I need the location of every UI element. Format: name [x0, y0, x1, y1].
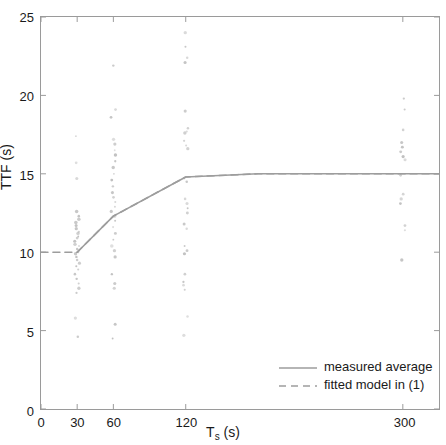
scatter-point: [75, 161, 78, 164]
legend-label: measured average: [324, 358, 432, 376]
scatter-point: [74, 316, 77, 319]
scatter-point: [110, 210, 113, 213]
scatter-point: [78, 245, 80, 247]
scatter-point: [183, 131, 186, 134]
scatter-point: [111, 191, 114, 194]
scatter-point: [184, 245, 186, 247]
scatter-point: [399, 202, 402, 205]
scatter-point: [187, 127, 189, 129]
scatter-point: [404, 229, 406, 231]
x-axis-label: Ts (s): [0, 424, 446, 442]
scatter-point: [76, 232, 79, 235]
scatter-point: [77, 336, 79, 338]
scatter-point: [400, 141, 403, 144]
scatter-point: [75, 224, 78, 227]
scatter-point: [401, 146, 404, 149]
scatter-point: [185, 202, 188, 205]
scatter-point: [114, 206, 116, 208]
scatter-point: [112, 64, 114, 66]
scatter-point: [183, 252, 186, 255]
plot-canvas: [41, 17, 439, 409]
scatter-point: [110, 244, 114, 248]
figure: 0510152025 03060120300 TTF (s) Ts (s) me…: [0, 0, 446, 445]
scatter-point: [113, 287, 116, 290]
scatter-point: [184, 273, 187, 276]
scatter-point: [186, 147, 189, 150]
measured-average-line: [77, 174, 439, 252]
scatter-point: [77, 287, 80, 290]
scatter-point: [75, 210, 79, 214]
scatter-point: [185, 145, 187, 147]
scatter-point: [73, 243, 76, 246]
scatter-point: [78, 215, 81, 218]
scatter-point: [186, 249, 189, 252]
scatter-point: [112, 166, 115, 169]
legend-solid-line-icon: [278, 361, 318, 373]
scatter-point: [114, 232, 117, 235]
scatter-point: [114, 149, 116, 151]
scatter-point: [114, 220, 116, 222]
scatter-point: [185, 180, 188, 183]
scatter-point: [75, 227, 78, 230]
scatter-point: [400, 197, 403, 200]
scatter-point: [75, 292, 77, 294]
scatter-point: [111, 273, 113, 275]
scatter-point: [76, 237, 79, 240]
scatter-point: [184, 198, 187, 201]
scatter-point: [404, 224, 407, 227]
scatter-point: [399, 150, 402, 153]
scatter-point: [75, 278, 77, 280]
scatter-point: [75, 177, 78, 180]
scatter-point: [187, 207, 189, 209]
scatter-point: [75, 256, 77, 258]
scatter-point: [182, 281, 184, 283]
scatter-point: [184, 289, 186, 291]
scatter-point: [110, 179, 113, 182]
scatter-point: [182, 334, 185, 337]
y-tick-label: 10: [20, 246, 41, 261]
scatter-point: [78, 282, 80, 284]
scatter-point: [114, 323, 117, 326]
scatter-point: [114, 108, 117, 111]
scatter-point: [112, 226, 114, 228]
scatter-point: [184, 31, 187, 34]
y-tick-label: 20: [20, 88, 41, 103]
scatter-point: [76, 259, 78, 261]
scatter-point: [114, 255, 117, 258]
scatter-point: [112, 138, 115, 141]
scatter-point: [185, 227, 187, 229]
scatter-point: [112, 196, 115, 199]
legend: measured averagefitted model in (1): [278, 358, 432, 394]
scatter-point: [73, 240, 76, 243]
scatter-point: [184, 61, 187, 64]
scatter-point: [112, 239, 114, 241]
scatter-point: [113, 173, 115, 175]
x-axis-label-unit: (s): [220, 424, 240, 440]
scatter-point: [184, 110, 187, 113]
scatter-point: [114, 160, 116, 162]
scatter-point: [112, 338, 114, 340]
scatter-point: [74, 273, 77, 276]
scatter-point: [114, 153, 117, 156]
scatter-point: [402, 155, 405, 158]
legend-dashed-line-icon: [278, 379, 318, 391]
scatter-point: [402, 193, 405, 196]
scatter-point: [113, 142, 116, 145]
y-axis-label: TTF (s): [0, 144, 14, 190]
scatter-point: [400, 258, 403, 261]
legend-entry: measured average: [278, 358, 432, 376]
scatter-point: [75, 265, 77, 267]
legend-label: fitted model in (1): [324, 376, 424, 394]
y-tick-label: 5: [27, 325, 41, 340]
fitted-model-line: [41, 174, 439, 252]
scatter-point: [186, 315, 189, 318]
scatter-point: [186, 57, 188, 59]
scatter-point: [77, 268, 79, 270]
scatter-point: [112, 185, 114, 187]
y-tick-label: 25: [20, 10, 41, 25]
scatter-point: [402, 129, 405, 132]
scatter-point: [186, 212, 189, 215]
scatter-point: [404, 158, 407, 161]
scatter-point: [114, 201, 116, 203]
scatter-point: [184, 46, 186, 48]
